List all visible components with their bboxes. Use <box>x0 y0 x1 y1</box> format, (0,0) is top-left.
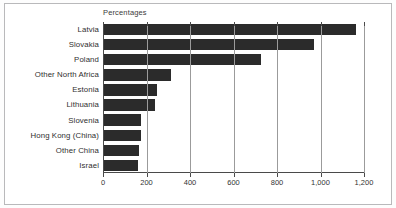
category-label-israel: Israel <box>79 161 99 170</box>
category-label-slovenia: Slovenia <box>68 116 99 125</box>
x-tick-mark-bottom <box>190 173 191 177</box>
x-tick-mark-bottom <box>277 173 278 177</box>
x-tick-mark-bottom <box>103 173 104 177</box>
x-tick-mark-bottom <box>364 173 365 177</box>
x-tick-mark-bottom <box>321 173 322 177</box>
x-tick-label: 0 <box>101 178 105 187</box>
category-label-other-north-africa: Other North Africa <box>35 70 99 79</box>
x-tick-mark <box>277 22 278 26</box>
bar-hong-kong-china <box>104 130 141 141</box>
x-tick-mark <box>190 22 191 26</box>
category-label-slovakia: Slovakia <box>69 40 99 49</box>
bar-slovakia <box>104 39 314 50</box>
plot-area <box>103 22 364 173</box>
bar-israel <box>104 160 138 171</box>
x-tick-label: 800 <box>271 178 284 187</box>
bar-poland <box>104 54 261 65</box>
x-tick-mark <box>321 22 322 26</box>
category-label-lithuania: Lithuania <box>66 100 99 109</box>
category-label-poland: Poland <box>74 55 99 64</box>
x-tick-label: 400 <box>184 178 197 187</box>
x-tick-label: 1,000 <box>311 178 330 187</box>
bar-slovenia <box>104 114 141 125</box>
bar-latvia <box>104 24 356 35</box>
x-tick-mark <box>364 22 365 26</box>
category-label-estonia: Estonia <box>72 85 99 94</box>
x-tick-mark-bottom <box>147 173 148 177</box>
x-tick-mark <box>147 22 148 26</box>
chart-title: Percentages <box>103 8 147 17</box>
bar-other-north-africa <box>104 69 171 80</box>
x-tick-mark <box>234 22 235 26</box>
x-tick-label: 200 <box>140 178 153 187</box>
x-tick-mark-bottom <box>234 173 235 177</box>
category-label-hong-kong-china: Hong Kong (China) <box>31 131 99 140</box>
gridline-200 <box>147 22 148 173</box>
figure-container: Percentages LatviaSlovakiaPolandOther No… <box>0 0 396 208</box>
gridline-1000 <box>321 22 322 173</box>
gridline-600 <box>234 22 235 173</box>
x-tick-label: 600 <box>227 178 240 187</box>
category-label-latvia: Latvia <box>78 25 99 34</box>
bar-other-china <box>104 145 139 156</box>
bar-estonia <box>104 84 157 95</box>
category-label-other-china: Other China <box>56 146 99 155</box>
gridline-400 <box>190 22 191 173</box>
gridline-1200 <box>364 22 365 173</box>
x-tick-label: 1,200 <box>355 178 374 187</box>
x-tick-mark <box>103 22 104 26</box>
gridline-800 <box>277 22 278 173</box>
